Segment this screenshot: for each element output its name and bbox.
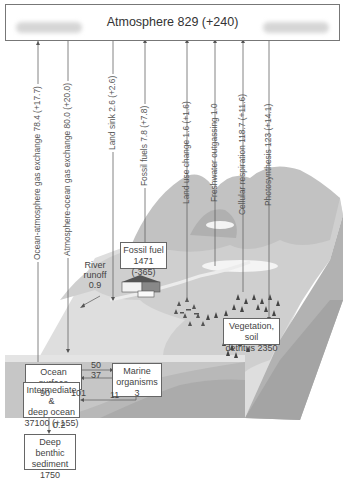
flux-cellular-respiration-label: Cellular respiration 118.7 (+11.6) <box>237 92 247 217</box>
river-runoff-label: River runoff 0.9 <box>80 260 110 290</box>
flow-deep-to-benthic: 0.2 <box>53 420 66 430</box>
river-runoff-line1: River <box>80 260 110 270</box>
benthic-title-2: sediment <box>25 459 75 470</box>
vegetation-value: detritus 2350 <box>224 343 279 354</box>
marine-organisms-value: 3 <box>113 388 161 399</box>
flux-atmosphere-ocean-label: Atmosphere-ocean gas exchange 80.0 (+20.… <box>62 81 72 258</box>
flow-marine-to-deep: 11 <box>110 390 119 400</box>
flux-freshwater-outgassing-label: Freshwater outgassing 1.0 <box>209 101 219 204</box>
vegetation-title: Vegetation, soil <box>224 321 279 343</box>
flux-photosynthesis-label: Photosynthesis 123 (+14.1) <box>263 102 273 208</box>
marine-organisms-title-1: Marine <box>113 366 161 377</box>
benthic-value: 1750 <box>25 470 75 481</box>
benthic-sediment-reservoir: Deep benthic sediment 1750 <box>24 434 76 470</box>
atmosphere-reservoir: Atmosphere 829 (+240) <box>5 4 340 41</box>
marine-organisms-title-2: organisms <box>113 377 161 388</box>
flux-land-use-change-label: Land use change 1.6 (+1.6) <box>181 99 191 206</box>
flux-ocean-atmosphere-label: Ocean-atmosphere gas exchange 78.4 (+17.… <box>32 84 42 262</box>
flow-deep-to-surface: 101 <box>71 388 86 398</box>
atmosphere-label: Atmosphere 829 (+240) <box>6 15 339 29</box>
flux-fossil-fuels-label: Fossil fuels 7.8 (+7.8) <box>139 104 149 188</box>
deep-ocean-value: 37100 (+155) <box>24 418 79 429</box>
river-runoff-value: 0.9 <box>80 280 110 290</box>
fossil-fuel-reservoir: Fossil fuel 1471 (-365) <box>120 242 167 269</box>
flux-land-sink-label: Land sink 2.6 (+2.6) <box>107 74 117 152</box>
deep-ocean-title-2: deep ocean <box>24 407 79 418</box>
fossil-fuel-title: Fossil fuel <box>121 245 166 256</box>
fossil-fuel-value: 1471 (-365) <box>121 256 166 278</box>
vegetation-soil-reservoir: Vegetation, soil detritus 2350 <box>223 318 280 345</box>
marine-organisms-reservoir: Marine organisms 3 <box>112 363 162 397</box>
benthic-title-1: Deep benthic <box>25 437 75 459</box>
flow-marine-to-surface: 37 <box>91 370 101 380</box>
flow-surface-to-deep: 90 <box>40 388 50 398</box>
river-runoff-line2: runoff <box>80 270 110 280</box>
flow-surface-to-marine: 50 <box>91 360 101 370</box>
